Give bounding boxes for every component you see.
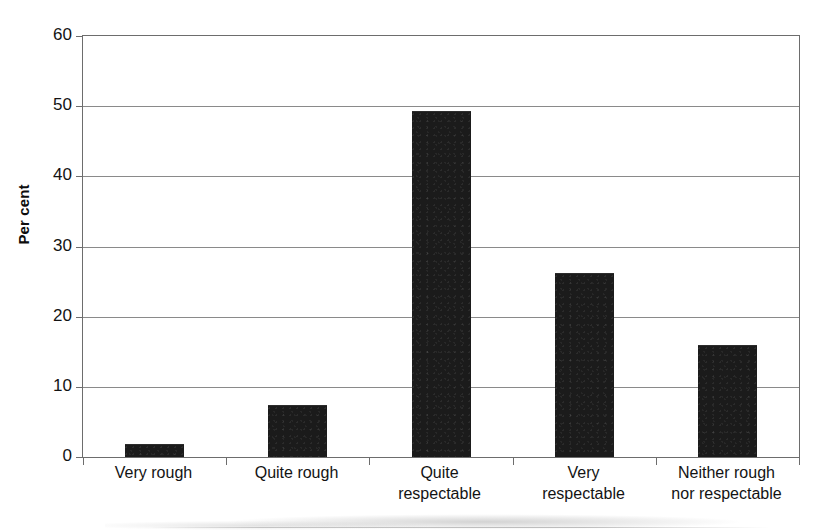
y-axis-tick-label: 30	[30, 237, 72, 254]
y-axis-tick	[76, 317, 83, 318]
x-axis-category-label: Very respectable	[512, 462, 655, 504]
y-axis-tick	[76, 176, 83, 177]
y-axis-tick	[76, 247, 83, 248]
x-axis-category-label: Quite respectable	[368, 462, 511, 504]
bar	[412, 111, 471, 457]
y-axis-tick-label: 0	[30, 447, 72, 464]
scan-artifact-edge-line	[150, 527, 770, 528]
bar-chart-figure: Per cent 0102030405060 Very roughQuite r…	[0, 0, 822, 530]
y-axis-tick-label: 10	[30, 377, 72, 394]
y-axis-tick-label: 60	[30, 26, 72, 43]
y-axis-tick	[76, 36, 83, 37]
x-axis-tick	[799, 457, 800, 465]
bar	[268, 405, 327, 457]
x-axis-category-label: Very rough	[82, 462, 225, 483]
x-axis-category-labels: Very roughQuite roughQuite respectableVe…	[82, 462, 798, 520]
y-axis-tick-labels: 0102030405060	[22, 0, 72, 530]
y-axis-tick	[76, 457, 83, 458]
y-axis-tick-label: 20	[30, 307, 72, 324]
y-axis-tick-label: 40	[30, 166, 72, 183]
y-axis-tick-label: 50	[30, 96, 72, 113]
y-axis-tick	[76, 387, 83, 388]
gridline	[83, 106, 799, 107]
bar	[125, 444, 184, 457]
bar	[555, 273, 614, 457]
bar	[698, 345, 757, 457]
y-axis-tick	[76, 106, 83, 107]
plot-area	[82, 35, 800, 458]
x-axis-category-label: Quite rough	[225, 462, 368, 483]
x-axis-category-label: Neither rough nor respectable	[655, 462, 798, 504]
